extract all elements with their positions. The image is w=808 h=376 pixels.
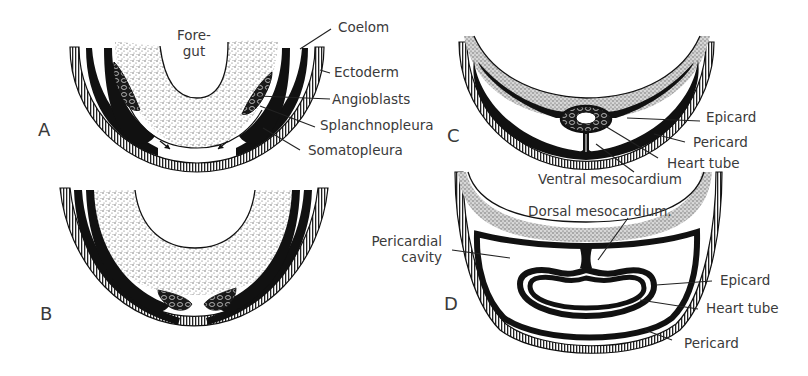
panel-a-drawing (70, 41, 324, 173)
panel-d-drawing (455, 172, 722, 353)
label-heart-tube-c: Heart tube (667, 155, 740, 171)
panel-letter-d: D (444, 294, 458, 314)
panel-b-drawing (60, 188, 328, 326)
label-pericard-d: Pericard (684, 335, 739, 351)
label-pericardial-cavity-line1: Pericardial (360, 233, 442, 249)
panel-letter-b: B (40, 304, 52, 324)
label-ventral-mesocardium: Ventral mesocardium (538, 171, 682, 187)
label-angioblasts: Angioblasts (332, 91, 410, 107)
label-splanchnopleura: Splanchnopleura (320, 117, 434, 133)
label-heart-tube-d: Heart tube (706, 300, 779, 316)
label-foregut-line1: Fore- (174, 27, 214, 43)
label-pericardial-cavity-line2: cavity (360, 249, 442, 265)
panel-letter-c: C (447, 126, 460, 146)
embryology-figure: A B C D Fore- gut Coelom Ectoderm Angiob… (0, 0, 808, 376)
label-ectoderm: Ectoderm (334, 64, 399, 80)
figure-drawing (0, 0, 808, 376)
panel-letter-a: A (38, 120, 50, 140)
label-epicard-d: Epicard (720, 272, 770, 288)
label-dorsal-mesocardium: Dorsal mesocardium. (528, 203, 672, 219)
label-pericard-c: Pericard (693, 134, 748, 150)
label-somatopleura: Somatopleura (308, 142, 403, 158)
label-foregut-line2: gut (174, 43, 214, 59)
label-coelom: Coelom (338, 19, 389, 35)
panel-c-drawing (459, 36, 714, 170)
label-epicard-c: Epicard (706, 109, 756, 125)
